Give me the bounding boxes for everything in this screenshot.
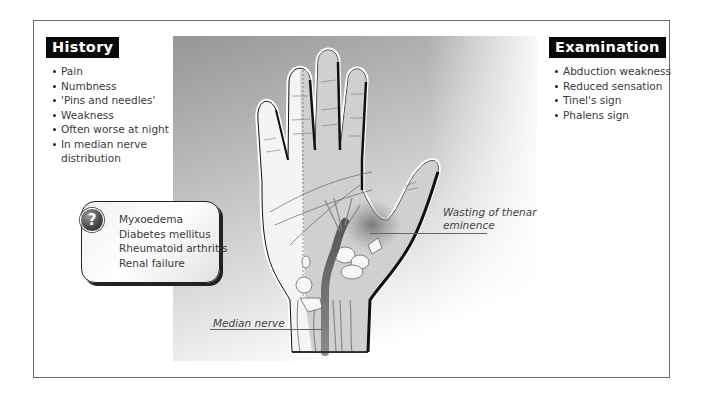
thenar-leader-line (370, 233, 487, 234)
history-heading: History (46, 37, 119, 58)
causes-list: Myxoedema Diabetes mellitus Rheumatoid a… (119, 212, 227, 270)
history-item: Numbness (53, 79, 173, 94)
history-list: Pain Numbness 'Pins and needles' Weaknes… (53, 64, 173, 166)
history-item: In median nerve distribution (53, 137, 173, 166)
examination-heading: Examination (549, 37, 666, 58)
examination-item: Tinel's sign (555, 93, 675, 108)
examination-list: Abduction weakness Reduced sensation Tin… (555, 64, 675, 122)
question-icon: ? (80, 208, 104, 232)
history-item: Often worse at night (53, 122, 173, 137)
history-item: 'Pins and needles' (53, 93, 173, 108)
cause-item: Diabetes mellitus (119, 227, 227, 242)
history-item: Weakness (53, 108, 173, 123)
cause-item: Rheumatoid arthritis (119, 241, 227, 256)
median-leader-line (210, 329, 322, 330)
history-item: Pain (53, 64, 173, 79)
hand-illustration (0, 0, 702, 396)
cause-item: Renal failure (119, 256, 227, 271)
examination-item: Phalens sign (555, 108, 675, 123)
thenar-label: Wasting of thenar eminence (443, 206, 543, 232)
cause-item: Myxoedema (119, 212, 227, 227)
examination-item: Abduction weakness (555, 64, 675, 79)
examination-item: Reduced sensation (555, 79, 675, 94)
